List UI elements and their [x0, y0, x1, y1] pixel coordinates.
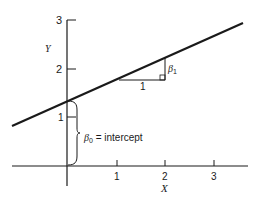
- beta-subscript: 1: [173, 68, 177, 75]
- y-tick-label-2: 2: [56, 63, 62, 75]
- slope-rise-label: β1: [167, 63, 177, 75]
- y-tick-label-1: 1: [58, 112, 64, 123]
- y-axis-label: Y: [45, 43, 52, 54]
- right-angle-marker: [160, 75, 165, 80]
- intercept-text: = intercept: [93, 132, 143, 143]
- x-tick-label-3: 3: [211, 171, 217, 182]
- x-tick-label-1: 1: [114, 171, 120, 182]
- intercept-brace: [68, 101, 80, 165]
- x-axis-label: X: [160, 182, 169, 194]
- x-tick-label-2: 2: [162, 171, 168, 182]
- intercept-label: β0 = intercept: [83, 132, 143, 144]
- regression-diagram: 3 2 1 1 2 3 Y X 1 β1 β0 = intercept: [0, 0, 262, 205]
- slope-run-label: 1: [140, 81, 146, 92]
- regression-line: [12, 23, 243, 126]
- y-tick-label-3: 3: [56, 14, 62, 26]
